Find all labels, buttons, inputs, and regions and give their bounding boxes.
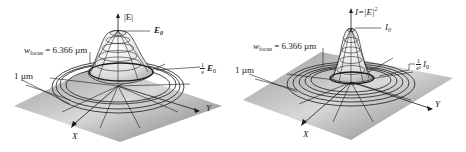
intensity-surface-graphic <box>233 0 466 152</box>
x-axis-label: X <box>72 132 78 141</box>
z-axis-label: |E| <box>124 13 133 22</box>
y-axis-label: Y <box>206 104 211 113</box>
z-axis-arrow-icon <box>349 8 353 13</box>
field-surface-graphic <box>0 0 233 152</box>
x-axis-label: X <box>303 130 309 139</box>
waist-label: wfocus = 6.366 µm <box>253 42 316 52</box>
one-over-e-squared-label: 1e²I0 <box>416 58 429 71</box>
waist-label: wfocus = 6.366 µm <box>24 46 87 56</box>
peak-label: E0 <box>154 26 163 36</box>
y-axis-label: Y <box>435 100 440 109</box>
scale-label: 1 µm <box>14 72 33 81</box>
peak-label: I0 <box>385 23 391 33</box>
intensity-plot: I=|E|2 I0 wfocus = 6.366 µm 1e²I0 1 µm X… <box>233 0 466 152</box>
field-amplitude-plot: |E| E0 wfocus = 6.366 µm 1eE0 1 µm X Y <box>0 0 233 152</box>
y-axis-arrow-icon <box>427 106 433 111</box>
z-axis-label: I=|E|2 <box>355 6 378 17</box>
z-axis-arrow-icon <box>116 13 120 18</box>
one-over-e-label: 1eE0 <box>200 62 216 75</box>
scale-label: 1 µm <box>235 66 254 75</box>
